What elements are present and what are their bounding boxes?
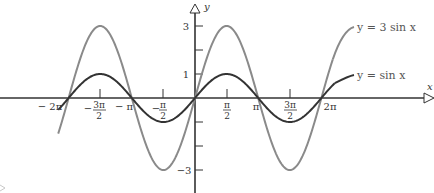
x-axis-arrow-icon: [424, 93, 434, 103]
y-tick-3: 3: [183, 21, 189, 32]
x-tick-3pi2: 3π 2: [284, 100, 297, 121]
y-axis-label: y: [203, 1, 210, 12]
svg-text:3π: 3π: [284, 100, 296, 110]
y-tick-1: 1: [183, 69, 189, 80]
svg-text:2: 2: [96, 111, 102, 121]
x-axis-label: x: [427, 81, 433, 92]
y-axis-arrow-icon: [190, 4, 200, 13]
x-tick-negpi2: − π 2: [152, 100, 167, 121]
corner-mark-icon: [0, 185, 5, 191]
svg-text:3π: 3π: [93, 100, 105, 110]
legend-leader-sin-x: [335, 75, 354, 83]
legend-3-sin-x: y = 3 sin x: [356, 21, 417, 34]
legend-sin-x: y = sin x: [356, 69, 406, 82]
x-tick-negpi: − π: [115, 101, 134, 112]
sine-chart: x y 3 1 −3 − 2π − π π 2π − 3π 2 − π 2 π: [0, 0, 434, 193]
legend-leader-3-sin-x: [333, 27, 354, 59]
svg-text:π: π: [224, 100, 230, 110]
svg-text:2: 2: [224, 111, 230, 121]
y-tick-neg3: −3: [177, 165, 192, 176]
x-tick-2pi: 2π: [324, 101, 337, 112]
svg-text:−: −: [152, 103, 160, 114]
x-tick-neg3pi2: − 3π 2: [84, 100, 106, 121]
svg-text:2: 2: [160, 111, 166, 121]
x-tick-pi2: π 2: [223, 100, 231, 121]
svg-text:−: −: [84, 103, 92, 114]
svg-text:π: π: [160, 100, 166, 110]
svg-text:2: 2: [287, 111, 293, 121]
